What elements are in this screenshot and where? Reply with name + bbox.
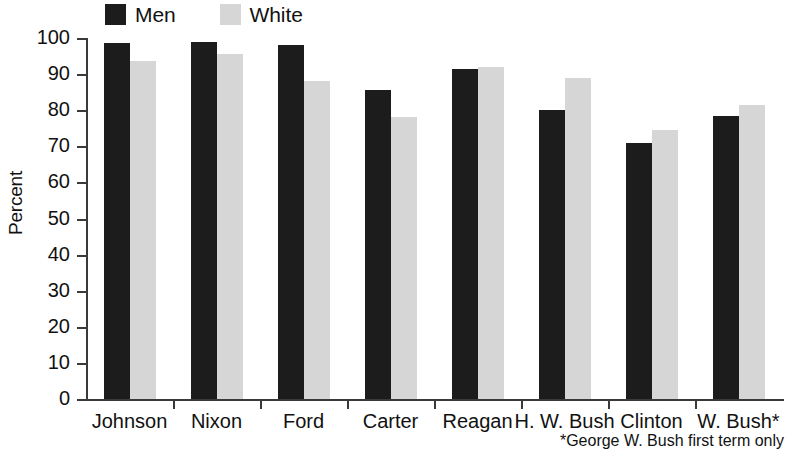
- x-tick-label-7: W. Bush*: [697, 410, 779, 432]
- x-axis-separator: [695, 400, 697, 409]
- x-axis-separator: [173, 400, 175, 409]
- y-tick: 100: [77, 38, 86, 40]
- bar-men-3: [365, 90, 391, 399]
- light-square-swatch-icon: [220, 4, 241, 25]
- y-tick-label: 60: [48, 170, 70, 192]
- y-tick-label: 0: [59, 387, 70, 409]
- y-tick: 70: [77, 146, 86, 148]
- bar-men-5: [539, 110, 565, 399]
- bar-chart: Men White Percent 1009080706050403020100…: [0, 0, 790, 455]
- y-tick: 80: [77, 110, 86, 112]
- x-axis-separator: [260, 400, 262, 409]
- y-axis-line: [86, 38, 88, 401]
- legend-item-white: White: [220, 4, 303, 25]
- bar-white-1: [217, 54, 243, 399]
- y-tick: 50: [77, 219, 86, 221]
- bar-white-0: [130, 61, 156, 399]
- bar-men-4: [452, 69, 478, 399]
- legend-label-men: Men: [135, 4, 176, 25]
- y-tick: 90: [77, 74, 86, 76]
- y-tick-label: 100: [37, 26, 70, 48]
- x-tick-label-3: Carter: [363, 410, 419, 432]
- x-axis-separator: [521, 400, 523, 409]
- y-tick: 20: [77, 327, 86, 329]
- x-axis-separator: [347, 400, 349, 409]
- y-tick: 30: [77, 291, 86, 293]
- bar-white-2: [304, 81, 330, 399]
- dark-square-swatch-icon: [105, 4, 126, 25]
- bar-men-7: [713, 116, 739, 399]
- x-axis-separator: [608, 400, 610, 409]
- y-axis-title: Percent: [5, 143, 27, 263]
- bar-white-6: [652, 130, 678, 399]
- y-tick: 0: [77, 399, 86, 401]
- y-tick-label: 20: [48, 315, 70, 337]
- x-tick-label-4: Reagan: [442, 410, 512, 432]
- x-tick-label-0: Johnson: [92, 410, 168, 432]
- x-tick-label-2: Ford: [283, 410, 324, 432]
- chart-footnote: *George W. Bush first term only: [560, 432, 784, 450]
- bar-white-7: [739, 105, 765, 399]
- bar-white-5: [565, 78, 591, 399]
- bar-white-4: [478, 67, 504, 399]
- chart-legend: Men White: [105, 2, 303, 26]
- x-tick-label-6: Clinton: [620, 410, 682, 432]
- y-tick: 40: [77, 255, 86, 257]
- x-tick-label-1: Nixon: [191, 410, 242, 432]
- legend-label-white: White: [250, 4, 303, 25]
- y-tick-label: 30: [48, 279, 70, 301]
- x-tick-label-5: H. W. Bush: [514, 410, 614, 432]
- y-tick-label: 50: [48, 207, 70, 229]
- y-tick-label: 70: [48, 134, 70, 156]
- y-tick-label: 90: [48, 62, 70, 84]
- bar-men-1: [191, 42, 217, 399]
- plot-area: 1009080706050403020100: [86, 38, 782, 400]
- bar-white-3: [391, 117, 417, 399]
- y-tick-label: 40: [48, 243, 70, 265]
- y-tick: 10: [77, 363, 86, 365]
- y-tick-label: 10: [48, 351, 70, 373]
- y-tick: 60: [77, 182, 86, 184]
- bar-men-2: [278, 45, 304, 399]
- bar-men-0: [104, 43, 130, 399]
- y-tick-label: 80: [48, 98, 70, 120]
- legend-item-men: Men: [105, 4, 176, 25]
- bar-men-6: [626, 143, 652, 399]
- x-axis-separator: [434, 400, 436, 409]
